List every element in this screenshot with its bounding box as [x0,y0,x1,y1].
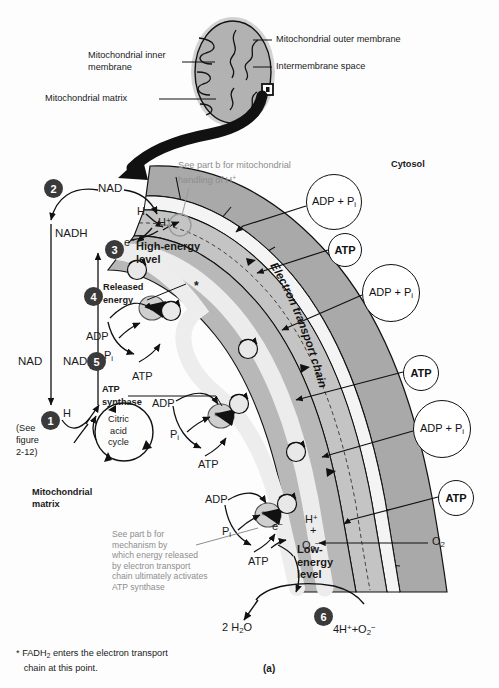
step-number-1: 1 [41,411,60,430]
product-water: 2 H2O [222,622,252,636]
step-number-3: 3 [105,240,124,259]
molecule-adp-2: ADP [152,398,175,410]
label-atp-synthase: ATP synthase [102,383,142,409]
adp-pi-circle: ADP + Pi [362,264,420,322]
molecule-adp-3: ADP [205,494,228,506]
molecule-plus-sign: + [310,525,316,537]
fadh2-asterisk-marker: * [194,281,199,293]
electron-circle [287,442,306,461]
atp-circle: ATP [403,355,439,391]
molecule-electron-low: e− [272,519,283,533]
molecule-nadh-mid: NADH [55,228,88,240]
label-mitochondrial-matrix: Mitochondrial matrix [32,487,92,510]
label-inner-membrane: Mitochondrial inner membrane [88,50,166,73]
electron-circle [278,494,297,513]
molecule-h-plus-step3: H+ [158,215,171,229]
note-mechanism: See part b for mechanism by which energy… [112,529,208,593]
label-intermembrane-space: Intermembrane space [276,61,365,73]
molecule-atp-1: ATP [132,371,153,383]
step-number-2: 2 [44,179,63,198]
step-number-6: 6 [314,607,333,626]
molecule-nad-top: NAD [98,183,122,195]
molecule-o2-cytosol: O2 [432,536,445,550]
label-matrix-inset: Mitochondrial matrix [45,93,127,105]
electron-circle [239,339,258,358]
footnote: * FADH2 enters the electron transport ch… [16,647,276,675]
molecule-h-step1: H [63,408,71,420]
molecule-superoxide: O2− [302,538,320,554]
molecule-pi-2: Pi [170,429,179,443]
label-high-energy-level: High-energy level [136,240,200,266]
molecule-h-step3: H [137,206,145,218]
molecule-electron-step3: e− [124,235,135,249]
electron-circle [162,301,181,320]
step-number-5: 5 [87,352,106,371]
step-number-4: 4 [84,287,103,306]
molecule-pi-3: Pi [222,526,231,540]
mitochondrion-inset [191,17,275,127]
label-citric-acid-cycle: Citric acid cycle [108,414,129,449]
panel-label: (a) [263,663,275,675]
adp-pi-circle: ADP + Pi [413,400,471,458]
atp-circle: ATP [438,480,474,516]
molecule-atp-3: ATP [248,556,269,568]
label-released-energy: Released energy [103,281,143,306]
label-outer-membrane: Mitochondrial outer membrane [276,34,401,46]
molecule-adp-1: ADP [86,331,109,343]
label-see-figure: (See figure 2-12) [16,422,39,458]
label-cytosol: Cytosol [391,159,425,171]
reactant-proton-superoxide: 4H++O2− [333,622,376,638]
atp-circle: ATP [328,233,362,267]
molecule-nad-bottom: NAD [18,356,42,368]
electron-circle [230,394,249,413]
molecule-atp-2: ATP [198,459,219,471]
figure-root: Electron transport chain [0,0,499,688]
note-h-handling: See part b for mitochondrial handling of… [178,160,291,186]
adp-pi-circle: ADP + Pi [306,174,362,230]
atp-synthase-leader [128,396,222,406]
